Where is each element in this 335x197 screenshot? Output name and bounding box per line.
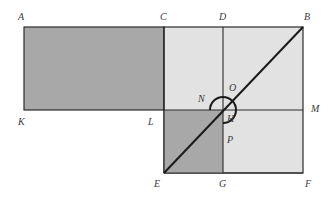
label-E: E xyxy=(153,178,160,189)
label-H: H xyxy=(226,113,235,124)
geometry-diagram: A C D B K L M E G F N O H P xyxy=(0,0,335,197)
label-K: K xyxy=(17,116,26,127)
label-M: M xyxy=(310,103,320,114)
label-D: D xyxy=(218,11,227,22)
label-G: G xyxy=(219,178,226,189)
label-L: L xyxy=(147,116,154,127)
label-C: C xyxy=(160,11,167,22)
rectangle-AKLC xyxy=(24,27,164,110)
label-A: A xyxy=(17,11,25,22)
label-O: O xyxy=(229,82,236,93)
label-P: P xyxy=(226,134,233,145)
label-N: N xyxy=(197,93,206,104)
label-B: B xyxy=(304,11,310,22)
label-F: F xyxy=(304,178,312,189)
